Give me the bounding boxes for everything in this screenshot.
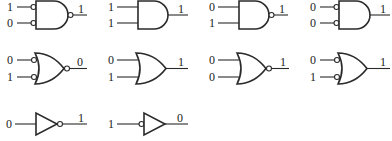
input-label: 1: [108, 118, 114, 130]
gate-and-inverted-inputs-inverted-output: 1 0 1: [0, 0, 98, 46]
gate-or-inverted-inputs: 0 1 1: [292, 53, 390, 99]
gate-not: 0 1: [0, 106, 98, 141]
and-inverted-inputs-gate-icon: [292, 0, 390, 46]
gate-and-inverted-inputs: 0 0 1: [292, 0, 390, 46]
gate-or-inverted-inputs-inverted-output: 0 1 0: [0, 53, 98, 99]
output-label: 0: [177, 112, 183, 124]
input-a-label: 0: [310, 1, 316, 13]
input-b-label: 1: [310, 71, 316, 83]
input-b-label: 0: [209, 71, 215, 83]
gate-buffer-inverted-input: 1 0: [100, 106, 198, 141]
output-label: 1: [380, 3, 386, 15]
input-a-label: 1: [7, 1, 13, 13]
logic-gates-diagram: 1 0 1 1 1 1 0 1 1: [0, 0, 392, 141]
output-label: 1: [178, 3, 184, 15]
input-b-label: 1: [7, 71, 13, 83]
input-a-label: 0: [108, 54, 114, 66]
output-label: 1: [380, 56, 386, 68]
or-inverted-inputs-gate-icon: [292, 53, 390, 99]
buffer-inverted-input-gate-icon: [100, 106, 198, 141]
output-label: 1: [279, 3, 285, 15]
gate-or: 0 1 1: [100, 53, 198, 99]
output-label: 1: [78, 112, 84, 124]
nor-style-gate-icon: [0, 53, 98, 99]
input-b-label: 0: [310, 17, 316, 29]
input-b-label: 0: [7, 17, 13, 29]
gate-nor: 0 0 1: [200, 53, 298, 99]
output-label: 0: [77, 56, 83, 68]
input-a-label: 0: [209, 54, 215, 66]
input-label: 0: [6, 118, 12, 130]
input-b-label: 1: [108, 17, 114, 29]
input-b-label: 1: [209, 17, 215, 29]
input-a-label: 1: [108, 1, 114, 13]
input-a-label: 0: [209, 1, 215, 13]
output-label: 1: [78, 3, 84, 15]
gate-and: 1 1 1: [100, 0, 198, 46]
input-b-label: 1: [108, 71, 114, 83]
input-a-label: 0: [7, 54, 13, 66]
input-a-label: 0: [310, 54, 316, 66]
output-label: 1: [280, 56, 286, 68]
gate-nand: 0 1 1: [200, 0, 298, 46]
output-label: 1: [178, 56, 184, 68]
